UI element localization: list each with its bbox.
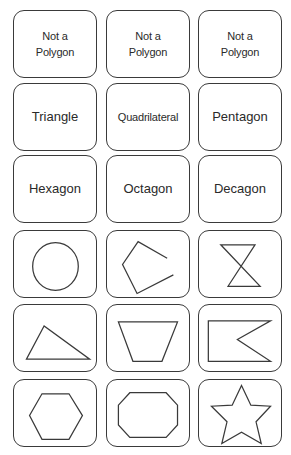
- open-pentagon-icon: [107, 231, 191, 299]
- hourglass-icon: [199, 231, 283, 299]
- name-card-not-polygon-2[interactable]: Not a Polygon: [106, 10, 190, 78]
- star-shape-icon: [199, 380, 283, 448]
- card-label: Decagon: [214, 181, 266, 197]
- shape-card-triangle-shape[interactable]: [13, 304, 97, 372]
- name-card-quadrilateral[interactable]: Quadrilateral: [106, 83, 190, 151]
- circle-icon: [14, 231, 98, 299]
- octagon-shape-icon: [107, 380, 191, 448]
- shape-card-circle[interactable]: [13, 230, 97, 298]
- name-card-not-polygon-1[interactable]: Not a Polygon: [13, 10, 97, 78]
- card-label: Not a Polygon: [221, 28, 259, 60]
- card-label: Quadrilateral: [118, 109, 178, 125]
- shape-card-flag-shape[interactable]: [198, 304, 282, 372]
- name-card-pentagon[interactable]: Pentagon: [198, 83, 282, 151]
- triangle-shape-icon: [14, 305, 98, 373]
- shape-card-octagon-shape[interactable]: [106, 379, 190, 447]
- card-label: Not a Polygon: [129, 28, 167, 60]
- hexagon-shape-icon: [14, 380, 98, 448]
- name-card-triangle[interactable]: Triangle: [13, 83, 97, 151]
- name-card-decagon[interactable]: Decagon: [198, 155, 282, 223]
- card-label: Hexagon: [29, 181, 81, 197]
- card-label: Triangle: [32, 109, 78, 125]
- shape-card-open-pentagon[interactable]: [106, 230, 190, 298]
- card-label: Pentagon: [212, 109, 268, 125]
- shape-card-trapezoid-shape[interactable]: [106, 304, 190, 372]
- card-label: Octagon: [123, 181, 172, 197]
- name-card-hexagon[interactable]: Hexagon: [13, 155, 97, 223]
- card-label: Not a Polygon: [36, 28, 74, 60]
- shape-card-hourglass[interactable]: [198, 230, 282, 298]
- name-card-not-polygon-3[interactable]: Not a Polygon: [198, 10, 282, 78]
- name-card-octagon[interactable]: Octagon: [106, 155, 190, 223]
- shape-card-hexagon-shape[interactable]: [13, 379, 97, 447]
- shape-card-star-shape[interactable]: [198, 379, 282, 447]
- flag-shape-icon: [199, 305, 283, 373]
- trapezoid-shape-icon: [107, 305, 191, 373]
